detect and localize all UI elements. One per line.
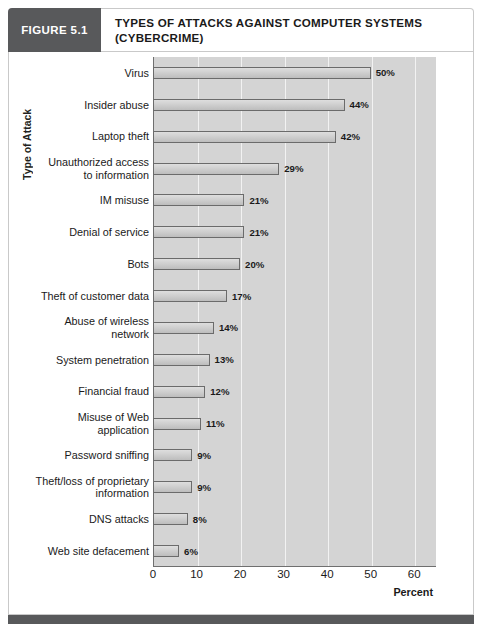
bar: [153, 226, 244, 238]
category-label-line-1: Insider abuse: [0, 99, 149, 112]
figure-number-badge: FIGURE 5.1: [8, 8, 101, 52]
category-label-line-1: Unauthorized access: [0, 156, 149, 169]
chart-row: System penetration13%: [9, 344, 436, 376]
bar: [153, 354, 210, 366]
chart-row: IM misuse21%: [9, 185, 436, 217]
category-label-line-1: DNS attacks: [0, 513, 149, 526]
bar-group: 50%: [153, 57, 395, 89]
bar-value-label: 50%: [376, 67, 395, 78]
category-label: Theft/loss of proprietaryinformation: [0, 475, 149, 500]
bar-value-label: 21%: [249, 195, 268, 206]
chart-row: Abuse of wirelessnetwork14%: [9, 312, 436, 344]
category-label: Laptop theft: [0, 130, 149, 143]
category-label-line-1: Bots: [0, 258, 149, 271]
x-tick-label: 40: [321, 568, 334, 580]
x-tick-label: 60: [408, 568, 421, 580]
bar-group: 12%: [153, 376, 229, 408]
figure-title-line-2: (CYBERCRIME): [115, 30, 422, 45]
category-label-line-2: to information: [0, 169, 149, 182]
category-label-line-2: application: [0, 424, 149, 437]
bar: [153, 513, 188, 525]
chart-row: Web site defacement6%: [9, 535, 436, 567]
bar: [153, 99, 345, 111]
category-label: Abuse of wirelessnetwork: [0, 315, 149, 340]
bar-value-label: 42%: [341, 131, 360, 142]
bar: [153, 131, 336, 143]
category-label: Theft of customer data: [0, 290, 149, 303]
bar: [153, 258, 240, 270]
bar: [153, 163, 279, 175]
category-label-line-1: System penetration: [0, 354, 149, 367]
bar-value-label: 13%: [215, 354, 234, 365]
bar-group: 17%: [153, 280, 251, 312]
bar-value-label: 11%: [206, 418, 225, 429]
bar: [153, 481, 192, 493]
x-tick-label: 0: [150, 568, 156, 580]
category-label-line-1: Misuse of Web: [0, 411, 149, 424]
bar-group: 42%: [153, 121, 360, 153]
figure-title-line-1: TYPES OF ATTACKS AGAINST COMPUTER SYSTEM…: [115, 15, 422, 30]
figure-title-box: TYPES OF ATTACKS AGAINST COMPUTER SYSTEM…: [101, 8, 474, 52]
bar-value-label: 17%: [232, 291, 251, 302]
x-tick-label: 20: [234, 568, 247, 580]
category-label: Insider abuse: [0, 99, 149, 112]
chart-row: Denial of service21%: [9, 216, 436, 248]
category-label-line-1: Web site defacement: [0, 545, 149, 558]
category-label: System penetration: [0, 354, 149, 367]
bar-group: 21%: [153, 185, 269, 217]
chart-row: Unauthorized accessto information29%: [9, 153, 436, 185]
bar: [153, 322, 214, 334]
category-label: Misuse of Webapplication: [0, 411, 149, 436]
bar: [153, 418, 201, 430]
bar-group: 8%: [153, 503, 207, 535]
category-label: Virus: [0, 67, 149, 80]
category-label: Web site defacement: [0, 545, 149, 558]
category-label-line-1: Abuse of wireless: [0, 315, 149, 328]
chart-row: Virus50%: [9, 57, 436, 89]
bar-group: 9%: [153, 440, 211, 472]
category-label: Denial of service: [0, 226, 149, 239]
bar-group: 9%: [153, 471, 211, 503]
bar-value-label: 9%: [197, 482, 211, 493]
category-label: Bots: [0, 258, 149, 271]
category-label-line-2: information: [0, 487, 149, 500]
bar-group: 21%: [153, 216, 269, 248]
category-label-line-1: Theft/loss of proprietary: [0, 475, 149, 488]
chart-row: Theft/loss of proprietaryinformation9%: [9, 471, 436, 503]
page-title: TYPES OF ATTACKS AGAINST COMPUTER SYSTEM…: [101, 15, 430, 45]
bar: [153, 386, 205, 398]
chart-row: Bots20%: [9, 248, 436, 280]
chart-row: Theft of customer data17%: [9, 280, 436, 312]
category-label: Financial fraud: [0, 385, 149, 398]
category-label-line-1: Financial fraud: [0, 385, 149, 398]
x-tick-label: 10: [190, 568, 203, 580]
x-tick-label: 30: [277, 568, 290, 580]
bar-value-label: 12%: [210, 386, 229, 397]
bar-group: 29%: [153, 153, 303, 185]
bar-group: 44%: [153, 89, 369, 121]
category-label: IM misuse: [0, 194, 149, 207]
bar-value-label: 9%: [197, 450, 211, 461]
category-label-line-2: network: [0, 328, 149, 341]
chart-row: Misuse of Webapplication11%: [9, 408, 436, 440]
bar: [153, 449, 192, 461]
category-label-line-1: Theft of customer data: [0, 290, 149, 303]
chart-row: DNS attacks8%: [9, 503, 436, 535]
bar: [153, 194, 244, 206]
category-label-line-1: Laptop theft: [0, 130, 149, 143]
bar-value-label: 14%: [219, 322, 238, 333]
figure-footer-bar: [8, 615, 474, 624]
figure-header: FIGURE 5.1 TYPES OF ATTACKS AGAINST COMP…: [8, 8, 474, 52]
bar-group: 6%: [153, 535, 198, 567]
x-axis-ticks: 0102030405060: [153, 568, 436, 586]
category-label: DNS attacks: [0, 513, 149, 526]
chart-row: Financial fraud12%: [9, 376, 436, 408]
chart-row: Laptop theft42%: [9, 121, 436, 153]
category-label-line-1: Password sniffing: [0, 449, 149, 462]
bar: [153, 545, 179, 557]
chart-rows: Virus50%Insider abuse44%Laptop theft42%U…: [9, 57, 436, 567]
figure-body: Type of Attack Virus50%Insider abuse44%L…: [8, 52, 474, 615]
bar-value-label: 21%: [249, 227, 268, 238]
category-label-line-1: IM misuse: [0, 194, 149, 207]
bar: [153, 67, 371, 79]
